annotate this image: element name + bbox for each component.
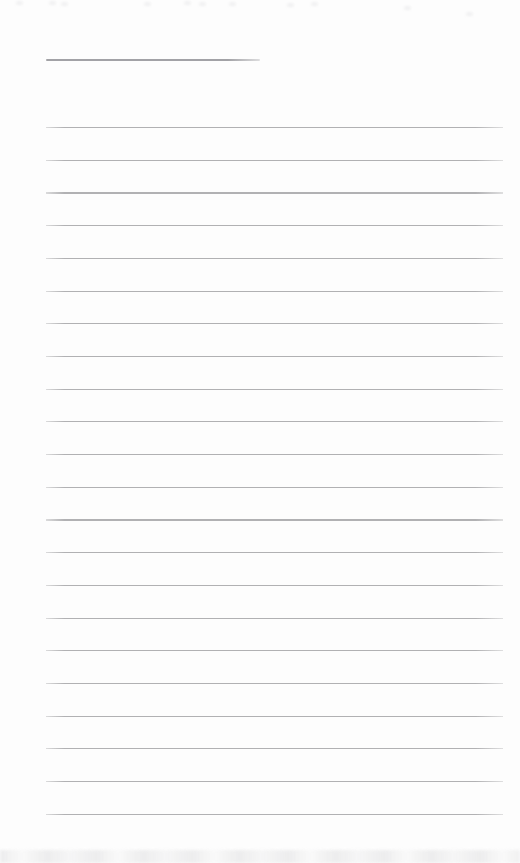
scan-speck xyxy=(16,1,23,5)
ruled-line xyxy=(46,781,503,782)
ruled-line xyxy=(46,192,503,193)
scan-speck xyxy=(144,2,151,6)
name-line xyxy=(46,59,260,61)
scan-speck xyxy=(229,2,236,6)
scan-speck xyxy=(61,2,68,6)
ruled-line xyxy=(46,356,503,357)
ruled-line xyxy=(46,650,503,651)
ruled-line xyxy=(46,291,503,292)
ruled-line xyxy=(46,323,503,324)
scanned-page xyxy=(0,0,520,863)
scan-speck xyxy=(199,2,206,6)
ruled-line xyxy=(46,454,503,455)
ruled-line xyxy=(46,258,503,259)
scan-speck xyxy=(184,1,191,5)
scan-speck xyxy=(404,6,411,10)
ruled-line xyxy=(46,716,503,717)
ruled-line xyxy=(46,519,503,520)
ruled-line xyxy=(46,552,503,553)
bottom-scan-artifact xyxy=(0,850,520,863)
ruled-line xyxy=(46,618,503,619)
ruled-line xyxy=(46,389,503,390)
scan-speck xyxy=(311,2,318,6)
ruled-line xyxy=(46,225,503,226)
scan-speck xyxy=(287,3,294,7)
ruled-line xyxy=(46,814,503,815)
scan-speck xyxy=(466,12,473,16)
ruled-line xyxy=(46,160,503,161)
ruled-line xyxy=(46,748,503,749)
ruled-line xyxy=(46,127,503,128)
ruled-line xyxy=(46,683,503,684)
scan-speck xyxy=(49,1,56,5)
ruled-line xyxy=(46,487,503,488)
ruled-line xyxy=(46,585,503,586)
ruled-line xyxy=(46,421,503,422)
